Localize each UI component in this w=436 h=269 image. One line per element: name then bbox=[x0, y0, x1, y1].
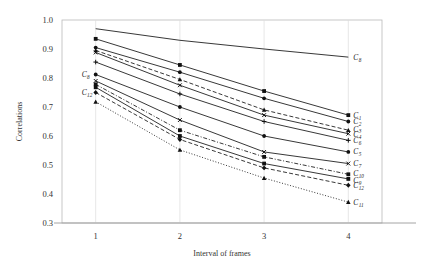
data-point-C2-x2 bbox=[178, 70, 182, 74]
data-point-C5-x3 bbox=[262, 134, 266, 138]
x-axis-title: Interval of frames bbox=[193, 249, 250, 258]
series-line-C5 bbox=[96, 75, 349, 152]
data-point-C10-x2 bbox=[178, 128, 182, 132]
series-C3: C3 bbox=[93, 48, 361, 134]
series-line-C7 bbox=[96, 81, 349, 164]
series-line-C6 bbox=[96, 62, 349, 140]
series-end-label-C5: C5 bbox=[353, 147, 361, 157]
y-axis-title: Correlations bbox=[15, 102, 24, 142]
y-tick-label-1.0: 1.0 bbox=[42, 15, 53, 25]
y-axis-title-text: Correlations bbox=[15, 102, 24, 142]
x-tick-label-3: 3 bbox=[262, 231, 266, 241]
series-line-C12 bbox=[96, 93, 349, 186]
series-C6: C6 bbox=[93, 60, 361, 146]
series-end-label-C7: C7 bbox=[353, 159, 361, 169]
series-C2: C2 bbox=[94, 46, 362, 127]
data-point-C10-x4 bbox=[346, 172, 350, 176]
data-point-C5-x4 bbox=[346, 150, 350, 154]
x-tick-label-2: 2 bbox=[178, 231, 182, 241]
correlation-line-chart: 12340.30.40.50.60.70.80.91.0Interval of … bbox=[0, 0, 436, 269]
y-tick-label-0.4: 0.4 bbox=[42, 189, 53, 199]
data-point-C12-x1 bbox=[93, 90, 98, 95]
series-line-C3 bbox=[96, 50, 349, 130]
x-tick-label-4: 4 bbox=[346, 231, 351, 241]
data-point-C3-x1 bbox=[93, 48, 98, 52]
series-line-C8 bbox=[96, 29, 349, 57]
data-point-C1-x1 bbox=[94, 37, 98, 41]
y-tick-label-0.8: 0.8 bbox=[42, 73, 53, 83]
data-point-C5-x2 bbox=[178, 105, 182, 109]
plot-canvas: 12340.30.40.50.60.70.80.91.0Interval of … bbox=[0, 0, 436, 269]
data-point-C11-x2 bbox=[178, 148, 183, 152]
data-point-C1-x2 bbox=[178, 63, 182, 67]
y-tick-label-0.3: 0.3 bbox=[42, 218, 53, 228]
series-C10: C10 bbox=[94, 82, 365, 179]
data-point-C2-x3 bbox=[262, 96, 266, 100]
series-C8: C8 bbox=[96, 29, 362, 63]
series-C9: C9 bbox=[94, 85, 362, 186]
y-tick-label-0.5: 0.5 bbox=[42, 160, 53, 170]
series-end-label-C11: C11 bbox=[353, 198, 364, 208]
series-line-C11 bbox=[96, 102, 349, 202]
series-line-C10 bbox=[96, 84, 349, 174]
x-tick-label-1: 1 bbox=[94, 231, 98, 241]
data-point-C9-x4 bbox=[346, 177, 350, 181]
series-line-C9 bbox=[96, 87, 349, 179]
series-end-label-C8: C8 bbox=[353, 53, 361, 63]
data-point-C5-x1 bbox=[94, 73, 98, 77]
y-tick-label-0.9: 0.9 bbox=[42, 44, 53, 54]
data-point-C1-x3 bbox=[262, 89, 266, 93]
series-line-C2 bbox=[96, 48, 349, 122]
data-point-C12-x3 bbox=[262, 165, 267, 170]
y-tick-label-0.6: 0.6 bbox=[42, 131, 53, 141]
data-point-C12-x4 bbox=[346, 183, 351, 188]
data-point-C10-x3 bbox=[262, 155, 266, 159]
data-point-C2-x4 bbox=[346, 120, 350, 124]
series-C11: C11 bbox=[93, 100, 364, 208]
series-start-label-C8-start: C8 bbox=[82, 70, 90, 80]
data-point-C1-x4 bbox=[346, 113, 350, 117]
y-tick-label-0.7: 0.7 bbox=[42, 102, 53, 112]
data-point-C11-x3 bbox=[262, 176, 267, 180]
data-point-C11-x1 bbox=[93, 100, 98, 104]
series-start-label-C12-start: C12 bbox=[82, 88, 93, 98]
series-C1: C1 bbox=[94, 37, 362, 121]
series-C5: C5 bbox=[94, 73, 362, 158]
data-point-C9-x1 bbox=[94, 85, 98, 89]
series-line-C1 bbox=[96, 39, 349, 115]
data-point-C9-x3 bbox=[262, 162, 266, 166]
